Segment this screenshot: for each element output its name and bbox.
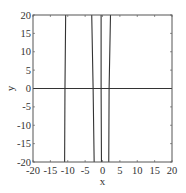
- y-axis-label: y: [4, 85, 16, 91]
- x-tick-label: -10: [61, 165, 75, 176]
- y-tick-labels: -20-15-10-505101520: [17, 10, 31, 168]
- y-tick-label: 0: [26, 83, 31, 94]
- y-tick-label: 15: [21, 28, 32, 39]
- y-tick-label: -10: [17, 120, 31, 131]
- x-tick-label: -15: [43, 165, 57, 176]
- x-tick-label: 10: [132, 165, 143, 176]
- y-tick-label: 5: [26, 65, 31, 76]
- y-tick-label: -15: [17, 138, 31, 149]
- x-tick-label: 20: [167, 165, 178, 176]
- x-tick-label: -5: [81, 165, 90, 176]
- y-tick-label: 20: [21, 10, 32, 21]
- x-tick-label: 15: [149, 165, 160, 176]
- y-tick-label: -20: [17, 157, 31, 168]
- x-tick-label: 5: [117, 165, 122, 176]
- plot-series: [33, 15, 172, 162]
- x-axis-label: x: [100, 175, 106, 187]
- y-tick-label: -5: [22, 101, 31, 112]
- y-tick-label: 10: [21, 46, 32, 57]
- chart: -20-15-10-505101520 -20-15-10-505101520 …: [0, 0, 186, 193]
